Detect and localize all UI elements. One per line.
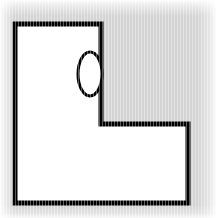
ellipse-marker xyxy=(78,52,102,96)
figure-canvas xyxy=(0,0,216,218)
l-shape-polygon xyxy=(15,24,188,203)
l-shape-figure xyxy=(0,0,216,218)
